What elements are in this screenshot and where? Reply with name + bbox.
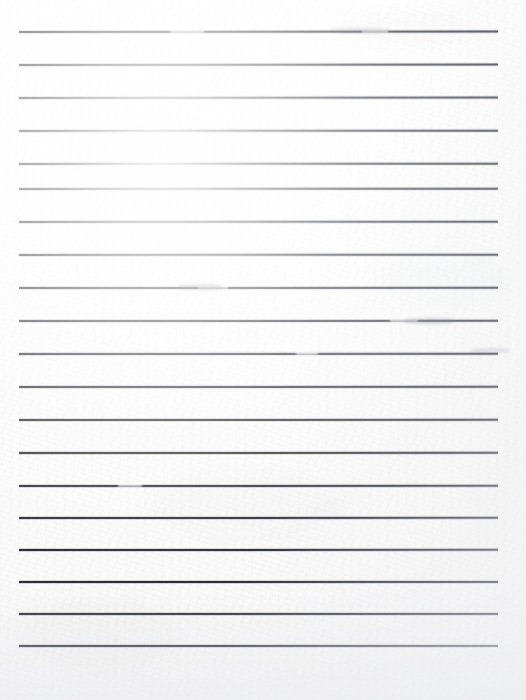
- scanned-paper-sheet: [0, 0, 526, 700]
- writing-area[interactable]: [19, 31, 498, 645]
- ruled-line: [19, 645, 498, 647]
